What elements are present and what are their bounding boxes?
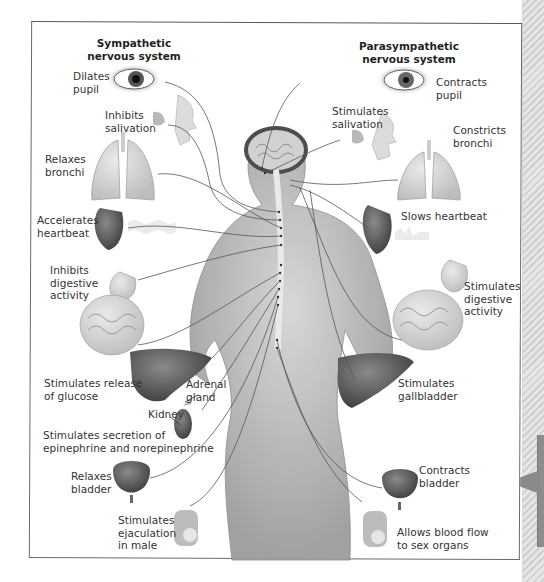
sex-organ-left-icon [174, 510, 198, 546]
label-stimulates-epinephrine-secretion: Stimulates secretion of epinephrine and … [43, 429, 214, 454]
label-contracts-pupil: Contracts pupil [436, 76, 487, 101]
label-adrenal-gland: Adrenal gland [186, 378, 227, 403]
eye-right-icon [376, 65, 432, 95]
face-left-icon [153, 95, 196, 145]
label-relaxes-bronchi: Relaxes bronchi [45, 153, 86, 178]
eye-left-icon [106, 64, 162, 94]
label-constricts-bronchi: Constricts bronchi [453, 124, 506, 149]
label-relaxes-bladder: Relaxes bladder [71, 470, 112, 495]
label-stimulates-release-glucose: Stimulates release of glucose [44, 377, 143, 402]
label-accelerates-heartbeat: Accelerates heartbeat [37, 214, 99, 239]
sympathetic-header: Sympathetic nervous system [84, 37, 184, 63]
label-dilates-pupil: Dilates pupil [73, 70, 110, 95]
label-contracts-bladder: Contracts bladder [419, 464, 470, 489]
label-slows-heartbeat: Slows heartbeat [401, 210, 487, 223]
label-stimulates-ejaculation: Stimulates ejaculation in male [118, 514, 176, 552]
parasympathetic-header: Parasympathetic nervous system [354, 40, 464, 66]
label-inhibits-digestive-activity: Inhibits digestive activity [50, 264, 98, 302]
intestines-right-icon [393, 290, 463, 350]
label-stimulates-salivation: Stimulates salivation [332, 105, 388, 130]
heart-left-icon [95, 208, 176, 250]
label-kidney: Kidney [148, 408, 184, 421]
lungs-right-icon [398, 140, 461, 200]
lungs-left-icon [92, 132, 155, 200]
label-stimulates-gallbladder: Stimulates gallbladder [398, 377, 458, 402]
intestines-left-icon [80, 295, 144, 355]
label-stimulates-digestive-activity: Stimulates digestive activity [464, 280, 520, 318]
sex-organ-right-icon [363, 511, 387, 547]
bladder-right-icon [382, 469, 418, 510]
label-allows-blood-flow: Allows blood flow to sex organs [397, 526, 489, 551]
bladder-left-icon [113, 461, 150, 503]
label-inhibits-salivation: Inhibits salivation [105, 109, 156, 134]
